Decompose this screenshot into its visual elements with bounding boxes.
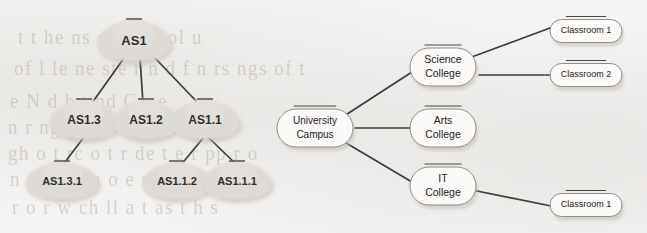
box-node-classroom1[interactable]: Classroom 1 bbox=[550, 17, 624, 47]
cloud-node-as1[interactable]: AS1 bbox=[97, 18, 173, 65]
box-node-label-line: Classroom 2 bbox=[561, 69, 612, 79]
box-node-it[interactable]: ITCollege bbox=[410, 164, 478, 209]
cloud-node-as1_3[interactable]: AS1.3 bbox=[49, 98, 121, 143]
box-node-label-line: IT bbox=[438, 172, 448, 184]
box-node-label-line: College bbox=[425, 186, 461, 198]
cloud-node-as1_1[interactable]: AS1.1 bbox=[170, 98, 242, 143]
tree-edge-science-classroom1 bbox=[469, 28, 550, 58]
cloud-node-as1_3_1[interactable]: AS1.3.1 bbox=[25, 160, 101, 203]
box-node-classroom3[interactable]: Classroom 1 bbox=[550, 191, 624, 221]
box-node-label-line: University bbox=[293, 115, 337, 126]
cloud-node-label: AS1.1.1 bbox=[217, 175, 257, 187]
box-node-label-line: Classroom 1 bbox=[561, 199, 612, 209]
box-node-label-line: Arts bbox=[434, 114, 453, 126]
tree-edge-it-classroom3 bbox=[472, 190, 551, 206]
cloud-node-as1_1_1[interactable]: AS1.1.1 bbox=[202, 160, 274, 203]
box-node-science[interactable]: ScienceCollege bbox=[410, 45, 478, 90]
diagram-page: t t he ns or r n r ol uof l le ne ste r … bbox=[0, 0, 647, 233]
tree-edge-campus-science bbox=[341, 72, 412, 118]
cloud-node-label: AS1.3.1 bbox=[42, 175, 82, 187]
right-tree-nodes: UniversityCampusScienceCollegeArtsColleg… bbox=[277, 17, 624, 221]
tree-edge-as1-as1_3 bbox=[92, 58, 124, 103]
box-node-label-line: College bbox=[425, 67, 461, 79]
left-tree-nodes: AS1AS1.3AS1.2AS1.1AS1.3.1AS1.1.2AS1.1.1 bbox=[25, 18, 274, 203]
box-node-label-line: Campus bbox=[296, 129, 333, 140]
cloud-node-label: AS1.3 bbox=[67, 113, 101, 127]
tree-edge-as1-as1_1 bbox=[155, 58, 198, 103]
box-node-label-line: College bbox=[425, 128, 461, 140]
cloud-node-label: AS1 bbox=[121, 33, 146, 48]
box-node-label-line: Classroom 1 bbox=[561, 25, 612, 35]
cloud-node-label: AS1.2 bbox=[129, 113, 163, 127]
box-node-classroom2[interactable]: Classroom 2 bbox=[550, 61, 624, 91]
cloud-node-label: AS1.1 bbox=[188, 113, 222, 127]
box-node-arts[interactable]: ArtsCollege bbox=[410, 106, 478, 151]
box-node-campus[interactable]: UniversityCampus bbox=[277, 106, 355, 151]
tree-edge-campus-it bbox=[341, 140, 412, 182]
hierarchy-diagrams-canvas: AS1AS1.3AS1.2AS1.1AS1.3.1AS1.1.2AS1.1.1 … bbox=[0, 0, 647, 233]
cloud-node-label: AS1.1.2 bbox=[157, 175, 197, 187]
box-node-label-line: Science bbox=[424, 53, 462, 65]
